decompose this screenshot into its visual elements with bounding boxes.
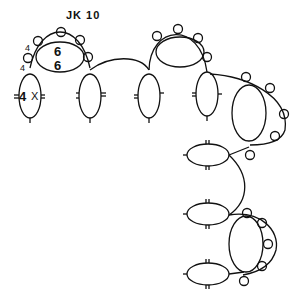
ring-2	[79, 74, 101, 118]
picot	[24, 54, 33, 63]
picot	[34, 37, 43, 46]
ring-7	[187, 263, 229, 285]
ring-large-1	[232, 85, 266, 141]
chain-arc-5	[229, 155, 245, 215]
picot-count-label-1: 4	[25, 44, 30, 53]
pattern-drawing	[0, 0, 303, 304]
ring-5	[187, 144, 229, 166]
ring-6	[187, 203, 229, 225]
tatting-diagram: JK 10 4 4 6 6 4 X	[0, 0, 303, 304]
picot-count-label-2: 4	[20, 64, 25, 73]
ring-stitch-bottom: 6	[54, 59, 61, 72]
ring-4	[196, 72, 218, 116]
pattern-title: JK 10	[66, 10, 100, 21]
chain-arc-2	[90, 59, 149, 70]
repeat-count: 4	[19, 90, 26, 103]
ring-3	[138, 74, 160, 118]
ring-stitch-top: 6	[54, 45, 61, 58]
repeat-x: X	[31, 91, 38, 102]
ring-center-2	[156, 37, 204, 67]
